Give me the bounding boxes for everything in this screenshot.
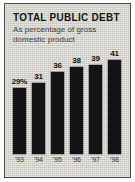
- bar-95: 36: [51, 49, 64, 154]
- bar-value-label: 29%: [12, 77, 28, 86]
- x-axis-tick: '96: [70, 156, 83, 163]
- bar-rect: [13, 88, 26, 154]
- bar-value-label: 41: [110, 49, 119, 58]
- bar-93: 29%: [13, 49, 26, 154]
- chart-title: TOTAL PUBLIC DEBT: [13, 11, 120, 23]
- x-axis-tick: '95: [51, 156, 64, 163]
- bar-rect: [89, 65, 102, 154]
- bar-value-label: 39: [91, 54, 100, 63]
- bar-value-label: 36: [53, 61, 62, 70]
- x-axis-labels: '93'94'95'96'97'98: [13, 156, 125, 170]
- bar-value-label: 31: [34, 72, 43, 81]
- x-axis-tick: '98: [108, 156, 121, 163]
- x-axis-tick: '97: [89, 156, 102, 163]
- plot-area: 29%3136383941: [13, 49, 125, 154]
- bar-97: 39: [89, 49, 102, 154]
- chart-panel: TOTAL PUBLIC DEBT As percentage of gross…: [4, 3, 131, 178]
- bar-rect: [51, 72, 64, 154]
- bar-94: 31: [32, 49, 45, 154]
- bar-rect: [32, 83, 45, 154]
- bar-98: 41: [108, 49, 121, 154]
- bar-96: 38: [70, 49, 83, 154]
- x-axis-tick: '94: [32, 156, 45, 163]
- chart-subtitle: As percentage of gross domestic product: [13, 25, 121, 44]
- x-axis-tick: '93: [13, 156, 26, 163]
- bar-rect: [108, 60, 121, 154]
- bar-rect: [70, 67, 83, 154]
- bar-value-label: 38: [72, 56, 81, 65]
- chart-panel-inner: TOTAL PUBLIC DEBT As percentage of gross…: [5, 4, 130, 177]
